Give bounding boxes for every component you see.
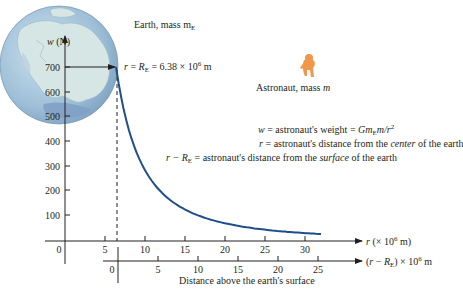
astronaut-icon: [300, 54, 315, 77]
altitude-tick-label: 20: [273, 264, 283, 275]
astronaut-label: Astronaut, mass m: [256, 82, 330, 93]
y-tick-label: 400: [32, 136, 60, 147]
legend-altitude: r − RE = astronaut's distance from the s…: [166, 152, 397, 163]
r-tick-label: 20: [220, 244, 230, 255]
altitude-tick-label: 5: [156, 264, 161, 275]
r-axis-label: r (× 106 m): [366, 236, 411, 247]
altitude-axis-ticks: [158, 256, 318, 261]
earth-radius-annotation: r = RE = 6.38 × 106 m: [124, 61, 212, 72]
legend-r: r = astronaut's distance from the center…: [193, 138, 463, 149]
r-tick-label: 0: [57, 244, 62, 255]
r-tick-label: 15: [180, 244, 190, 255]
r-tick-label: 30: [300, 244, 310, 255]
y-tick-label: 200: [32, 185, 60, 196]
r-axis-ticks: [105, 236, 305, 241]
y-tick-label: 300: [32, 161, 60, 172]
altitude-tick-label: 25: [313, 264, 323, 275]
altitude-axis-label: (r − RE) × 106 m: [366, 256, 432, 267]
altitude-axis-caption: Distance above the earth's surface: [179, 275, 315, 286]
y-tick-label: 100: [32, 210, 60, 221]
altitude-tick-label: 15: [233, 264, 243, 275]
y-tick-label: 700: [32, 62, 60, 73]
y-tick-label: 600: [32, 87, 60, 98]
y-tick-label: 500: [32, 111, 60, 122]
legend-weight: w = astronaut's weight = GmEm/r2: [258, 124, 394, 135]
altitude-tick-label: 0: [110, 264, 115, 275]
altitude-tick-label: 10: [193, 264, 203, 275]
r-tick-label: 10: [140, 244, 150, 255]
r-tick-label: 5: [103, 244, 108, 255]
earth-label: Earth, mass mE: [134, 19, 195, 30]
y-axis-title: w (N): [47, 36, 70, 47]
r-tick-label: 25: [260, 244, 270, 255]
